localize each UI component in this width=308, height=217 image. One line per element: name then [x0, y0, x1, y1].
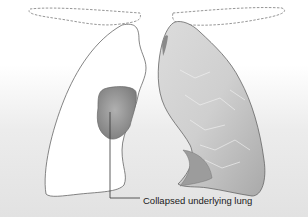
diagram-canvas: Collapsed underlying lung [0, 0, 308, 217]
annotation-label-collapsed-lung: Collapsed underlying lung [143, 195, 252, 206]
lungs-illustration [0, 0, 308, 217]
